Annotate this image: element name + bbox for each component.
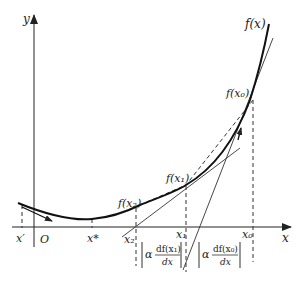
- secant-chord: [140, 100, 253, 205]
- alpha-symbol: α: [202, 248, 210, 261]
- tick-label-x-prime: x′: [16, 232, 25, 245]
- point-label-f-x1: f(x₁): [165, 172, 189, 185]
- curve-label: f(x): [244, 17, 266, 31]
- step-arrow-x0: [238, 128, 241, 140]
- tick-label-x0: x₀: [242, 228, 253, 241]
- y-axis-label: y: [22, 12, 30, 26]
- tangent-at-x0: [183, 38, 273, 270]
- step-label-x0: α df(x₀) dx: [199, 242, 240, 268]
- fraction-denominator: dx: [220, 257, 231, 267]
- gradient-descent-diagram: y x O f(x) f(x₀) f(x₁) f(x₂) x′ x* x₂ x₁…: [0, 0, 299, 287]
- tick-label-x2: x₂: [124, 233, 135, 246]
- axes: [12, 15, 291, 247]
- fraction-denominator: dx: [162, 257, 173, 267]
- tick-label-x-star: x*: [87, 232, 99, 245]
- fraction-numerator: df(x₁): [156, 244, 181, 254]
- point-label-f-x2: f(x₂): [117, 197, 141, 210]
- tangent-at-x1: [122, 148, 240, 237]
- tick-label-x1: x₁: [176, 228, 187, 241]
- point-label-f-x0: f(x₀): [225, 87, 249, 100]
- step-label-x1: α df(x₁) dx: [142, 242, 181, 268]
- curve-f: [18, 24, 269, 219]
- x-axis-label: x: [282, 231, 289, 245]
- origin-label: O: [40, 233, 49, 246]
- alpha-symbol: α: [145, 248, 153, 261]
- fraction-numerator: df(x₀): [213, 244, 238, 254]
